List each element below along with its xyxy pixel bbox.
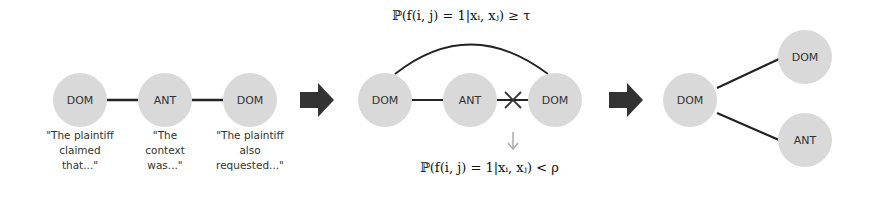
node-label: DOM [542, 94, 569, 107]
node-ant: ANT [443, 73, 497, 127]
node-label: ANT [459, 94, 482, 107]
node-dom: DOM [53, 73, 107, 127]
added-edge-arc [395, 45, 548, 75]
node-dom: DOM [358, 73, 412, 127]
node-ant: ANT [138, 73, 192, 127]
node-dom: DOM [663, 73, 717, 127]
node-dom: DOM [528, 73, 582, 127]
right-arrow-icon [609, 83, 643, 117]
edge-dom-ant [717, 113, 779, 140]
caption-node-3: "The plaintiff also requested..." [205, 128, 295, 173]
add-edge-condition: ℙ(f(i, j) = 1|xᵢ, xⱼ) ≥ τ [392, 8, 530, 23]
node-label: DOM [372, 94, 399, 107]
caption-node-1: "The plaintiff claimed that..." [35, 128, 125, 173]
edge-dom-dom [717, 59, 779, 88]
caption-node-2: "The context was..." [120, 128, 210, 173]
node-dom: DOM [778, 30, 832, 84]
node-ant: ANT [778, 113, 832, 167]
down-arrow-icon [508, 132, 518, 149]
node-label: DOM [237, 94, 264, 107]
right-arrow-icon [300, 83, 334, 117]
node-dom: DOM [223, 73, 277, 127]
node-label: DOM [792, 51, 819, 64]
node-label: ANT [794, 134, 817, 147]
node-label: DOM [67, 94, 94, 107]
node-label: DOM [677, 94, 704, 107]
remove-edge-condition: ℙ(f(i, j) = 1|xᵢ, xⱼ) < ρ [420, 160, 559, 175]
node-label: ANT [154, 94, 177, 107]
